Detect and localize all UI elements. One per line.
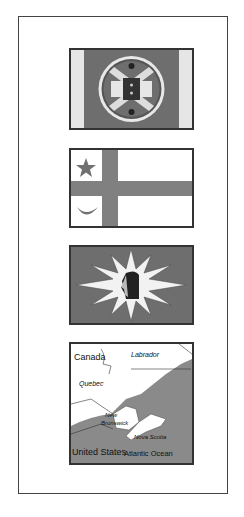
label-quebec: Quebec	[79, 380, 104, 387]
emblem-icon	[71, 50, 192, 128]
label-brunswick: Brunswick	[101, 420, 128, 426]
map-panel: Canada Labrador Quebec New Brunswick Nov…	[69, 342, 194, 465]
label-united-states: United States	[72, 447, 126, 457]
label-atlantic-ocean: Atlantic Ocean	[124, 449, 173, 458]
label-nova-scotia: Nova Scotia	[134, 434, 166, 440]
sunburst-icon	[71, 247, 192, 323]
label-new: New	[105, 412, 117, 418]
flag-sunburst	[69, 245, 194, 325]
flag-cross-star-crescent	[69, 148, 194, 228]
flag-emblem	[69, 48, 194, 130]
label-canada: Canada	[74, 352, 106, 362]
label-labrador: Labrador	[131, 351, 159, 358]
cross-flag-icon	[71, 150, 192, 226]
